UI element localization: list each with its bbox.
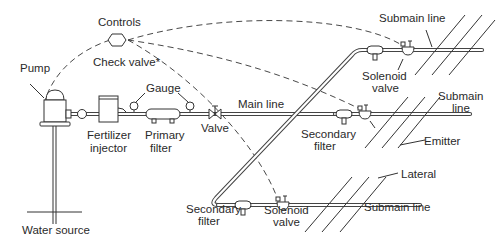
label-primary-2: filter xyxy=(150,142,172,154)
label-solenoid-top-2: valve xyxy=(372,82,399,94)
label-check-valve: Check valve* xyxy=(93,56,161,68)
solenoid-valve-mid-icon xyxy=(358,105,371,119)
label-secondary-mid-2: filter xyxy=(314,140,336,152)
gauge-icon-2 xyxy=(186,102,194,110)
label-secondary-bot-1: Secondary xyxy=(186,203,241,215)
label-primary-1: Primary xyxy=(145,129,185,141)
secondary-filter-top-icon xyxy=(367,46,383,60)
valve-icon xyxy=(209,106,221,119)
label-submain-top: Submain line xyxy=(379,12,445,24)
label-main-line: Main line xyxy=(238,98,284,110)
label-fertilizer-2: injector xyxy=(90,142,127,154)
controls-icon xyxy=(108,34,126,46)
control-wire-top-solenoid xyxy=(128,21,400,44)
label-secondary-bot-2: filter xyxy=(198,215,220,227)
label-secondary-mid-1: Secondary xyxy=(301,128,356,140)
label-lateral: Lateral xyxy=(401,168,436,180)
label-solenoid-bot-2: valve xyxy=(273,216,300,228)
label-controls: Controls xyxy=(98,16,141,28)
label-emitter: Emitter xyxy=(424,135,461,147)
label-submain-mid-1: Submain xyxy=(438,90,483,102)
fertilizer-injector-icon xyxy=(99,96,126,122)
label-water-source: Water source xyxy=(22,224,90,236)
label-solenoid-top-1: Solenoid xyxy=(362,70,407,82)
irrigation-diagram: Controls Check valve* Pump Gauge Main li… xyxy=(0,0,504,248)
secondary-filter-mid-icon xyxy=(336,110,352,124)
check-valve-icon xyxy=(78,110,87,119)
gauge-icon-1 xyxy=(130,102,138,110)
label-submain-mid-2: line xyxy=(452,102,470,114)
label-valve: Valve xyxy=(201,122,229,134)
primary-filter-icon xyxy=(146,109,180,123)
label-gauge: Gauge xyxy=(146,82,181,94)
diagram-svg: Controls Check valve* Pump Gauge Main li… xyxy=(0,0,504,248)
label-solenoid-bot-1: Solenoid xyxy=(264,204,309,216)
solenoid-valve-top-icon xyxy=(401,41,414,55)
laterals xyxy=(305,15,495,232)
label-fertilizer-1: Fertilizer xyxy=(87,129,131,141)
label-pump: Pump xyxy=(20,62,50,74)
pump-icon xyxy=(40,90,71,126)
label-submain-bot: Submain line xyxy=(364,201,430,213)
